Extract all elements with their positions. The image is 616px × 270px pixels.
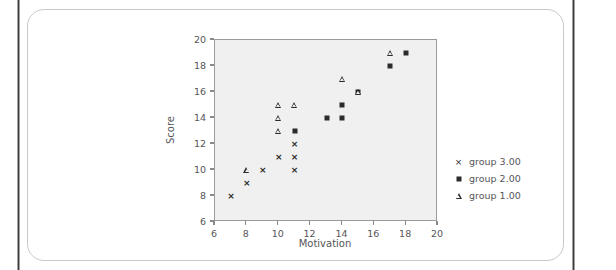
y-axis-tick-label: 8 (200, 190, 206, 201)
triangle-marker-icon (339, 76, 345, 82)
y-axis-tick-label: 18 (194, 60, 206, 71)
triangle-marker-icon (387, 50, 393, 56)
x-axis-tick-label: 20 (431, 228, 443, 239)
legend-item-label: group 3.00 (469, 156, 521, 167)
x-axis-tick (277, 221, 278, 225)
x-axis-tick (341, 221, 342, 225)
legend-item[interactable]: group 2.00 (454, 173, 521, 184)
x-axis-tick-label: 16 (367, 228, 379, 239)
y-axis-tick-label: 16 (194, 86, 206, 97)
legend-item[interactable]: ×group 3.00 (454, 156, 521, 167)
square-marker-icon (340, 103, 345, 108)
triangle-marker-icon (276, 128, 282, 134)
triangle-marker-icon (276, 115, 282, 121)
y-axis-title: Score (165, 116, 176, 144)
x-axis-tick-label: 6 (211, 228, 217, 239)
y-axis-tick-label: 14 (194, 112, 206, 123)
y-axis-tick (210, 168, 214, 169)
legend-item-label: group 1.00 (469, 190, 521, 201)
square-marker-icon (292, 129, 297, 134)
content-card: ××××××× 68101214161820 68101214161820 Mo… (27, 9, 564, 261)
x-axis-tick-label: 10 (272, 228, 284, 239)
square-marker-icon (388, 64, 393, 69)
y-axis-tick (210, 38, 214, 39)
x-axis-tick-label: 8 (243, 228, 249, 239)
x-axis-title: Motivation (299, 238, 352, 249)
triangle-marker-icon (244, 167, 250, 173)
x-axis-tick (213, 221, 214, 225)
plot-area: ××××××× (214, 39, 437, 221)
cross-marker-icon: × (455, 157, 463, 166)
y-axis-tick (210, 142, 214, 143)
x-axis-tick (309, 221, 310, 225)
page-edge-bar-left (17, 0, 20, 270)
x-axis-tick (245, 221, 246, 225)
triangle-marker-icon (276, 102, 282, 108)
chart-legend: ×group 3.00group 2.00group 1.00 (454, 156, 521, 201)
data-points-layer: ××××××× (215, 40, 436, 220)
legend-item[interactable]: group 1.00 (454, 190, 521, 201)
square-marker-icon (404, 51, 409, 56)
y-axis-tick (210, 194, 214, 195)
triangle-marker-icon (292, 102, 298, 108)
scatter-chart: ××××××× 68101214161820 68101214161820 Mo… (158, 28, 578, 252)
triangle-marker-icon (456, 193, 462, 199)
square-marker-icon (340, 116, 345, 121)
x-axis-tick (436, 221, 437, 225)
legend-item-label: group 2.00 (469, 173, 521, 184)
y-axis-tick (210, 64, 214, 65)
y-axis-tick (210, 116, 214, 117)
x-axis-tick (405, 221, 406, 225)
y-axis-tick (210, 90, 214, 91)
page-root: ××××××× 68101214161820 68101214161820 Mo… (0, 0, 616, 270)
y-axis-tick-label: 12 (194, 138, 206, 149)
legend-marker: × (454, 157, 463, 166)
y-axis-tick-label: 20 (194, 34, 206, 45)
legend-marker (454, 191, 463, 200)
x-axis-tick-label: 18 (399, 228, 411, 239)
legend-marker (454, 174, 463, 183)
x-axis-tick (373, 221, 374, 225)
square-marker-icon (456, 176, 461, 181)
y-axis-tick-label: 10 (194, 164, 206, 175)
square-marker-icon (324, 116, 329, 121)
y-axis-tick-label: 6 (200, 216, 206, 227)
triangle-marker-icon (355, 89, 361, 95)
